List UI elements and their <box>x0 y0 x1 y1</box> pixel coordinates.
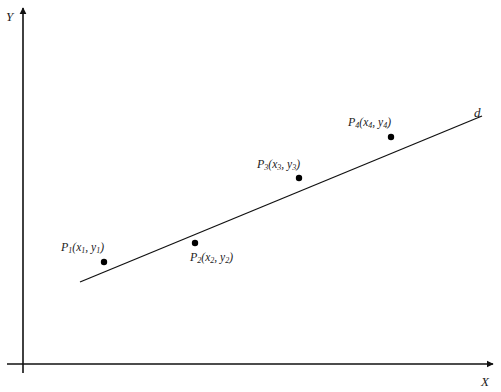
regression-diagram <box>0 0 501 392</box>
line-label-d: d <box>474 106 481 119</box>
point-label-p1: P1(x1, y1) <box>61 241 104 255</box>
point-p3 <box>296 175 302 181</box>
y-axis-label: Y <box>6 10 13 23</box>
point-label-p4: P4(x4, y4) <box>348 116 391 130</box>
point-label-p3: P3(x3, y3) <box>257 158 300 172</box>
regression-line-d <box>80 116 482 282</box>
point-p2 <box>192 240 198 246</box>
point-p4 <box>388 134 394 140</box>
point-label-p2: P2(x2, y2) <box>190 251 233 265</box>
point-p1 <box>101 259 107 265</box>
x-axis-label: X <box>481 375 489 388</box>
